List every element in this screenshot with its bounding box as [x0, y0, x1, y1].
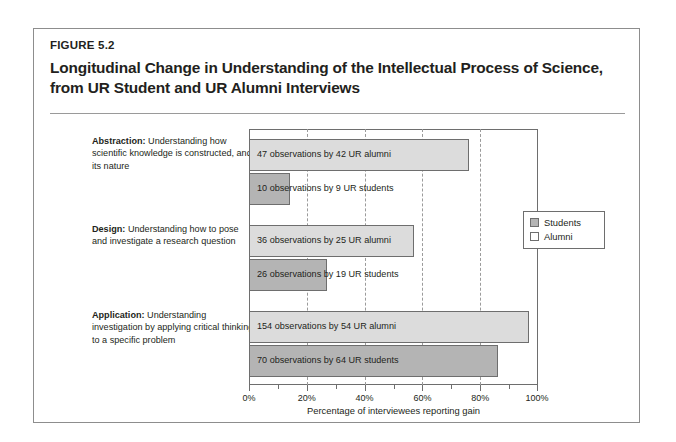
category-label-application-term: Application:: [92, 310, 145, 320]
plot-right-border: [537, 129, 538, 385]
category-label-design-term: Design:: [92, 224, 125, 234]
chart-legend: Students Alumni: [523, 211, 605, 249]
category-label-abstraction: Abstraction: Understanding how scientifi…: [92, 135, 254, 172]
category-label-application: Application: Understanding investigation…: [92, 309, 254, 346]
tick-label-40: 40%: [356, 393, 374, 403]
tick-label-20: 20%: [298, 393, 316, 403]
x-axis-title: Percentage of interviewees reporting gai…: [249, 405, 538, 416]
category-label-abstraction-term: Abstraction:: [92, 136, 146, 146]
plot-region: 47 observations by 42 UR alumni 10 obser…: [249, 129, 538, 385]
tick-label-80: 80%: [471, 393, 489, 403]
bar-label-design-students: 26 observations by 19 UR students: [257, 270, 399, 279]
bar-label-abstraction-alumni: 47 observations by 42 UR alumni: [257, 150, 391, 159]
tick-label-0: 0%: [242, 393, 255, 403]
figure-number: FIGURE 5.2: [50, 39, 623, 51]
bar-label-abstraction-students: 10 observations by 9 UR students: [257, 184, 393, 193]
legend-item-alumni[interactable]: Alumni: [530, 231, 598, 242]
plot-top-border: [249, 129, 538, 130]
figure-header: FIGURE 5.2 Longitudinal Change in Unders…: [50, 39, 623, 97]
tick-60: [422, 385, 423, 391]
figure-title: Longitudinal Change in Understanding of …: [50, 58, 623, 97]
legend-swatch-alumni-icon: [530, 232, 539, 241]
legend-label-alumni: Alumni: [544, 231, 573, 242]
figure-frame: FIGURE 5.2 Longitudinal Change in Unders…: [33, 28, 640, 423]
tick-20: [307, 385, 308, 391]
legend-label-students: Students: [544, 217, 581, 228]
tick-label-60: 60%: [413, 393, 431, 403]
tick-80: [480, 385, 481, 391]
tick-100: [537, 385, 538, 391]
tick-40: [365, 385, 366, 391]
legend-item-students[interactable]: Students: [530, 217, 598, 228]
tick-90: [509, 385, 510, 389]
tick-30: [336, 385, 337, 389]
tick-70: [451, 385, 452, 389]
bar-label-design-alumni: 36 observations by 25 UR alumni: [257, 236, 391, 245]
tick-10: [278, 385, 279, 389]
tick-50: [394, 385, 395, 389]
bar-label-application-students: 70 observations by 64 UR students: [257, 356, 399, 365]
bar-label-application-alumni: 154 observations by 54 UR alumni: [257, 322, 396, 331]
tick-0: [249, 385, 250, 391]
chart-area: Abstraction: Understanding how scientifi…: [34, 113, 641, 424]
category-label-design: Design: Understanding how to pose and in…: [92, 223, 254, 248]
legend-swatch-students-icon: [530, 218, 539, 227]
tick-label-100: 100%: [525, 393, 548, 403]
